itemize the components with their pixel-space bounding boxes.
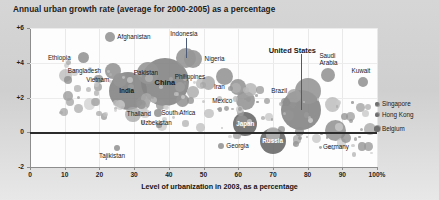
label-philippines: Philippines: [175, 73, 205, 80]
label-south-africa: South Africa: [161, 109, 195, 116]
bubble-unlabeled: [256, 101, 259, 104]
bubble-unlabeled: [224, 106, 229, 111]
y-axis-tick-label: 0: [6, 128, 24, 135]
x-axis-tick-label: 30: [119, 171, 149, 178]
y-axis-tick-label: -2: [6, 163, 24, 170]
y-axis-tick-mark: [27, 63, 30, 64]
bubble-unlabeled: [349, 119, 353, 123]
bubble-unlabeled: [317, 98, 320, 101]
label-nigeria: Nigeria: [205, 55, 225, 62]
label-russia: Russia: [262, 137, 283, 144]
label-saudi-arabia: SaudiArabia: [319, 52, 337, 66]
label-belgium: Belgium: [382, 125, 405, 132]
label-bangladesh: Bangladesh: [68, 67, 101, 74]
marker-hong-kong: [375, 113, 379, 117]
marker-belgium: [374, 126, 380, 132]
bubble-tajikistan: [114, 145, 120, 151]
label-india: India: [119, 87, 134, 94]
y-axis-tick-label: +4: [6, 59, 24, 66]
x-axis-tick-label: 40: [154, 171, 184, 178]
bubble-unlabeled: [114, 109, 117, 112]
label-afghanistan: Afghanistan: [117, 33, 150, 40]
bubble-georgia: [218, 143, 224, 149]
bubble-unlabeled: [335, 123, 343, 131]
label-hong-kong: Hong Kong: [382, 111, 414, 118]
label-iran: Iran: [214, 83, 225, 90]
label-tajikistan: Tajikistan: [99, 152, 125, 159]
chart-title: Annual urban growth rate (average for 20…: [13, 5, 275, 14]
label-thailand: Thailand: [127, 110, 151, 117]
label-uzbekistan: Uzbekistan: [141, 119, 172, 126]
bubble-unlabeled: [94, 90, 99, 95]
bubble-unlabeled: [298, 136, 302, 140]
x-axis-tick-label: 60: [223, 171, 253, 178]
bubble-unlabeled: [109, 80, 112, 83]
bubble-unlabeled: [326, 136, 328, 138]
bubble-unlabeled: [121, 106, 124, 109]
label-ethiopia: Ethiopia: [48, 54, 71, 61]
bubble-unlabeled: [351, 101, 354, 104]
label-china: China: [155, 78, 176, 87]
bubble-unlabeled: [107, 70, 110, 73]
label-vietnam: Vietnam: [86, 76, 109, 83]
bubble-unlabeled: [204, 109, 213, 118]
bubble-unlabeled: [172, 116, 175, 119]
bubble-unlabeled: [145, 104, 148, 107]
zero-baseline: [30, 132, 377, 133]
leader-line: [186, 38, 187, 58]
label-kuwait: Kuwait: [351, 67, 370, 74]
bubble-kuwait: [358, 77, 368, 87]
label-germany: Germany: [323, 143, 349, 150]
x-axis-label: Level of urbanization in 2003, as a perc…: [0, 182, 439, 191]
x-axis-tick-label: 90: [327, 171, 357, 178]
bubble-unlabeled: [182, 120, 189, 127]
bubble-unlabeled: [231, 108, 234, 111]
x-axis-tick-label: 70: [258, 171, 288, 178]
bubble-unlabeled: [271, 118, 274, 121]
label-japan: Japan: [236, 120, 254, 127]
bubble-unlabeled: [196, 123, 205, 132]
bubble-unlabeled: [91, 98, 99, 106]
x-axis-tick-mark: [377, 167, 378, 170]
bubble-unlabeled: [74, 104, 83, 113]
label-pakistan: Pakistan: [134, 69, 158, 76]
bubble-unlabeled: [364, 142, 373, 151]
bubble-unlabeled: [96, 111, 102, 117]
y-axis-tick-label: +2: [6, 94, 24, 101]
bubble-unlabeled: [187, 97, 194, 104]
x-axis-tick-label: 10: [50, 171, 80, 178]
gridline-vertical: [377, 28, 378, 167]
label-singapore: Singapore: [382, 100, 411, 107]
bubble-unlabeled: [77, 96, 80, 99]
x-axis-line: [30, 167, 377, 168]
label-brazil: Brazil: [271, 87, 287, 94]
label-mexico: Mexico: [212, 97, 232, 104]
plot-area: AfghanistanEthiopiaBangladeshVietnamIndi…: [30, 28, 377, 167]
bubble-unlabeled: [238, 107, 242, 111]
y-axis-tick-label: +6: [6, 24, 24, 31]
bubble-unlabeled: [174, 92, 178, 96]
bubble-unlabeled: [255, 94, 257, 96]
bubble-unlabeled: [256, 86, 264, 94]
chart-figure: Annual urban growth rate (average for 20…: [0, 0, 439, 200]
bubble-afghanistan: [105, 32, 115, 42]
x-axis-tick-label: 100%: [362, 171, 392, 178]
bubble-unlabeled: [308, 118, 312, 122]
bubble-unlabeled: [244, 98, 247, 101]
y-axis-tick-mark: [27, 98, 30, 99]
bubble-unlabeled: [352, 152, 357, 157]
gridline-horizontal: [30, 98, 377, 99]
bubble-unlabeled: [336, 105, 339, 108]
x-axis-tick-label: 50: [189, 171, 219, 178]
label-georgia: Georgia: [226, 142, 248, 149]
label-united-states: United States: [269, 46, 316, 55]
leader-line: [301, 54, 302, 110]
gridline-horizontal: [30, 28, 377, 29]
x-axis-tick-label: 20: [84, 171, 114, 178]
x-axis-tick-label: 80: [293, 171, 323, 178]
y-axis-tick-mark: [27, 28, 30, 29]
bubble-unlabeled: [193, 81, 196, 84]
bubble-unlabeled: [74, 85, 80, 91]
bubble-unlabeled: [290, 102, 296, 108]
label-indonesia: Indonesia: [170, 30, 197, 37]
